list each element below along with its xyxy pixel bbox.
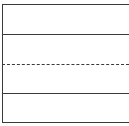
writing-lines-frame: [2, 4, 129, 122]
bottom-line: [2, 122, 129, 123]
upper-line: [2, 34, 129, 35]
lower-line: [2, 93, 129, 94]
dashed-midline: [2, 64, 129, 65]
top-line: [2, 4, 129, 5]
